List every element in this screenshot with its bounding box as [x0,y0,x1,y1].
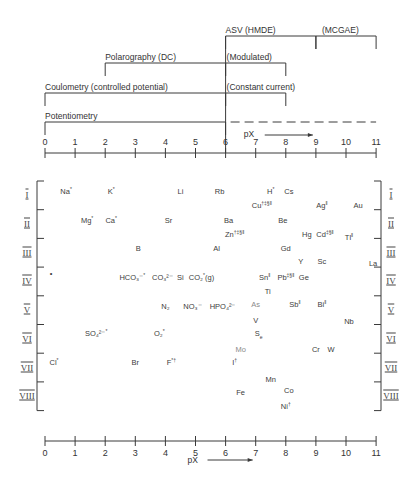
species-annotation-mark: * [272,186,274,192]
left-group-axis-label-iv: IV [22,277,32,286]
species-au: Au [353,203,362,211]
species-symbol: Sb [289,301,298,310]
bottom-axis-tick-label-8: 8 [283,449,288,458]
species-annotation-mark: ‖ [324,299,326,305]
species-annotation-mark: † [288,401,291,407]
species-zn: Zn†‡§‖ [225,231,244,239]
species-symbol: Li [178,187,184,196]
species-symbol: Si [177,273,184,282]
species-symbol: • [50,269,53,278]
species-symbol: Be [278,216,287,225]
species-annotation-mark: * [163,328,165,334]
species-symbol: O₂ [154,329,163,338]
bottom-axis-tick-label-1: 1 [73,449,78,458]
species-nb: Nb [344,319,354,327]
bottom-axis-tick-label-4: 4 [163,449,168,458]
species-symbol: Gd [281,245,291,254]
top-axis-tick-label-11: 11 [371,138,380,147]
bottom-axis-tick-label-0: 0 [42,449,47,458]
species-annotation-mark: * [91,214,93,220]
species-so: SO₄²⁻* [85,330,107,338]
species-symbol: Al [213,245,220,254]
species-ni: Ni† [281,403,291,411]
right-group-axis-label-ii: II [388,220,394,229]
bottom-axis-tick-label-7: 7 [253,449,258,458]
top-axis-title: pX [244,130,254,139]
species-ge: Ge [299,274,309,282]
species-annotation-mark: * [143,272,145,278]
species-la: La [369,260,377,268]
species-symbol: Y [298,257,303,266]
species-symbol: Cu [252,202,262,211]
species-as: As [251,302,260,310]
species-symbol: Ti [265,288,271,297]
species-symbol: As [251,301,260,310]
species-sc: Sc [318,258,327,266]
left-group-axis-label-viii: VIII [19,392,35,401]
species-symbol: Co [284,387,294,396]
species-symbol: Cs [284,187,293,196]
species-gd: Gd [281,246,291,254]
method-mcgae-label: (MCGAE) [322,26,359,35]
species-symbol: SO₄²⁻ [85,329,105,338]
method-asv-hmde-label: ASV (HMDE) [226,26,276,35]
species-symbol: Ba [224,216,233,225]
bottom-axis-tick-label-3: 3 [133,449,138,458]
species-symbol: HPO₄²⁻ [210,302,236,311]
species-b: B [136,246,141,254]
species-symbol: Au [353,202,362,211]
species-annotation-mark: ‡§‖ [326,229,334,235]
right-group-axis-label-vi: VI [386,334,396,343]
species-symbol: Sn [259,273,268,282]
right-group-axis-label-iv: IV [386,277,396,286]
species-symbol: NO₃⁻ [183,302,201,311]
species-symbol: CO₃²⁻ [152,273,173,282]
species-symbol: Cr [312,345,320,354]
species-hco: HCO₃⁻* [119,274,145,282]
method-polarography-modulated-label: (Modulated) [227,53,272,62]
species-i: I† [232,359,237,367]
right-group-axis-label-vii: VII [385,363,398,372]
species-symbol: HCO₃⁻ [119,273,143,282]
species-symbol: Zn [225,230,234,239]
method-potentiometry-label: Potentiometry [45,112,97,121]
species-k: K* [108,188,115,196]
species-symbol: Mg [81,216,91,225]
species-al: Al [213,246,220,254]
diagram-lines [0,0,417,485]
species-symbol: W [327,345,334,354]
species-o: O₂* [154,330,165,338]
species-co: CO₂*(g) [189,274,214,282]
species-annotation-mark: * [70,186,72,192]
species-symbol: Na [60,187,70,196]
species-symbol: Nb [344,318,354,327]
species-y: Y [298,258,303,266]
species-s: Se [255,330,263,338]
species-symbol: Ca [105,216,115,225]
right-group-axis-label-iii: III [387,248,396,257]
species-subscript: e [260,334,263,340]
left-group-axis-label-vii: VII [21,363,34,372]
species-symbol: V [253,316,258,325]
method-coulometry-controlled-potential-label: Coulometry (controlled potential) [45,83,168,92]
left-group-axis-label-v: V [24,306,31,315]
species-annotation-mark: ‡§‖ [287,272,295,278]
method-polarography-dc-label: Polarography (DC) [105,53,176,62]
species-sb: Sb‖ [289,302,300,310]
top-axis-tick-label-1: 1 [73,138,78,147]
species-v: V [253,317,258,325]
species-mg: Mg* [81,217,93,225]
bottom-axis-tick-label-10: 10 [341,449,351,458]
bottom-axis-tick-label-11: 11 [371,449,380,458]
species-symbol: N₂ [161,302,169,311]
species-be: Be [278,217,287,225]
top-axis-tick-label-2: 2 [103,138,108,147]
species-annotation-mark: † [234,356,237,362]
species-annotation-mark: ‖ [351,232,353,238]
species-symbol: Hg [302,230,312,239]
arrow-right-icon [308,133,313,137]
right-group-axis-label-i: I [390,191,393,200]
bottom-axis-tick-label-2: 2 [103,449,108,458]
top-axis-tick-label-3: 3 [133,138,138,147]
bottom-axis-tick-label-6: 6 [223,449,228,458]
